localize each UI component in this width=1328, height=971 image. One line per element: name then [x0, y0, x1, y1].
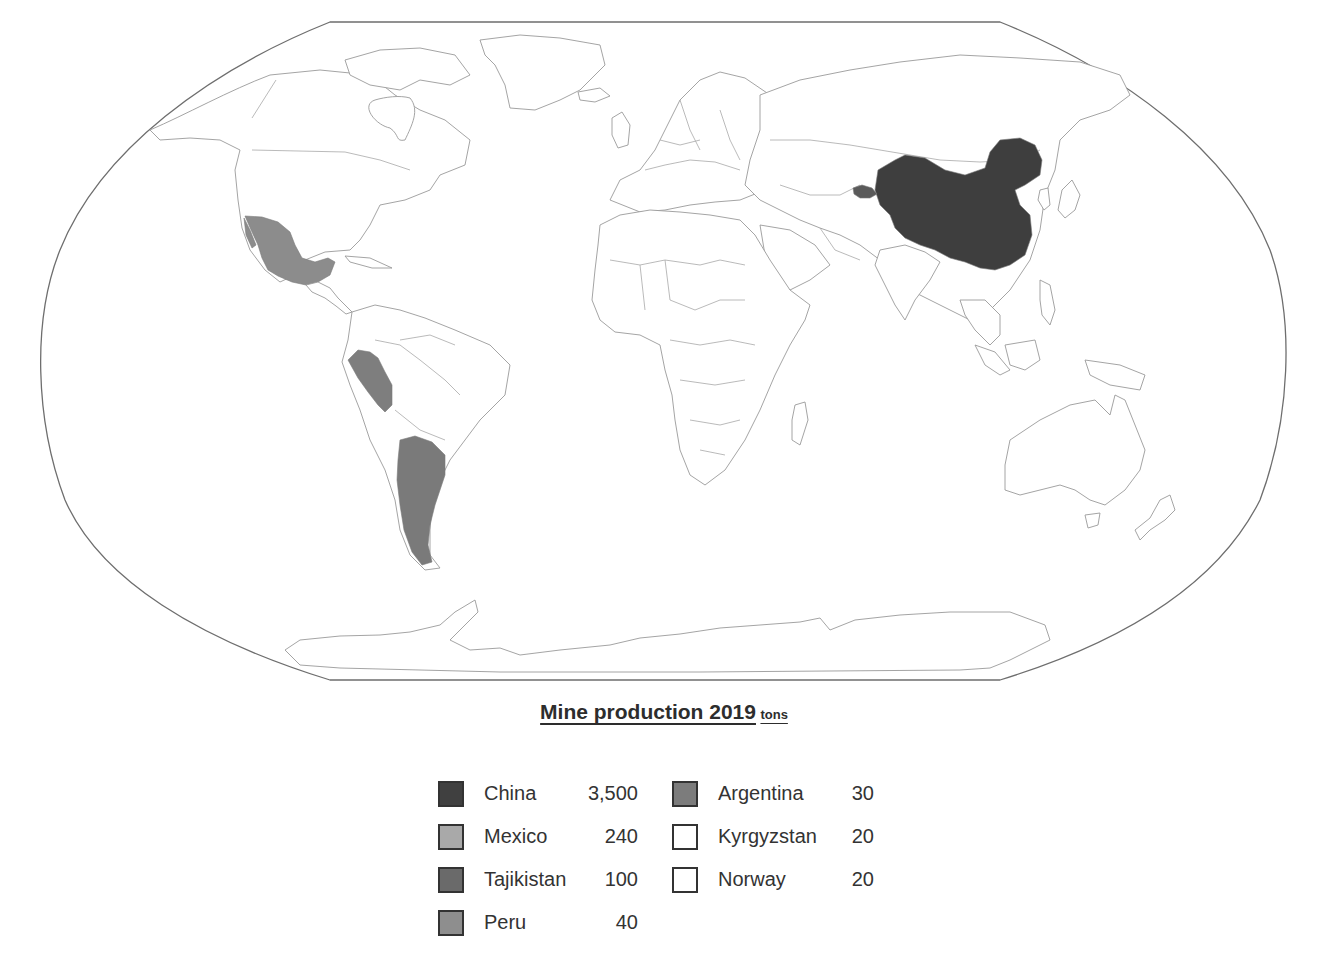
- legend-country: Mexico: [484, 825, 547, 848]
- legend-item-kyrgyzstan: Kyrgyzstan 20: [672, 815, 882, 858]
- legend-country: Peru: [484, 911, 526, 934]
- legend-value: 20: [852, 868, 874, 891]
- legend-item-china: China 3,500: [438, 772, 648, 815]
- world-map: [0, 0, 1328, 690]
- legend-country: Norway: [718, 868, 786, 891]
- legend-value: 20: [852, 825, 874, 848]
- legend-value: 100: [605, 868, 638, 891]
- swatch-argentina: [672, 781, 698, 807]
- legend-column-1: China 3,500 Mexico 240 Tajikistan 100 Pe…: [438, 772, 648, 944]
- legend-value: 240: [605, 825, 638, 848]
- legend-item-mexico: Mexico 240: [438, 815, 648, 858]
- legend-item-peru: Peru 40: [438, 901, 648, 944]
- legend-item-tajikistan: Tajikistan 100: [438, 858, 648, 901]
- legend-item-argentina: Argentina 30: [672, 772, 882, 815]
- legend-item-norway: Norway 20: [672, 858, 882, 901]
- title-main: Mine production 2019: [540, 700, 756, 723]
- legend-country: Tajikistan: [484, 868, 566, 891]
- legend-country: China: [484, 782, 536, 805]
- legend-value: 30: [852, 782, 874, 805]
- swatch-kyrgyzstan: [672, 824, 698, 850]
- legend-title: Mine production 2019 tons: [0, 700, 1328, 724]
- legend-column-2: Argentina 30 Kyrgyzstan 20 Norway 20: [672, 772, 882, 901]
- legend-value: 3,500: [588, 782, 638, 805]
- swatch-peru: [438, 910, 464, 936]
- swatch-mexico: [438, 824, 464, 850]
- swatch-china: [438, 781, 464, 807]
- title-unit: tons: [760, 707, 787, 722]
- legend-value: 40: [616, 911, 638, 934]
- legend-country: Argentina: [718, 782, 804, 805]
- swatch-tajikistan: [438, 867, 464, 893]
- swatch-norway: [672, 867, 698, 893]
- legend-country: Kyrgyzstan: [718, 825, 817, 848]
